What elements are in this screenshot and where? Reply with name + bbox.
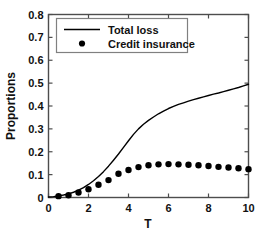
legend-label-credit-insurance: Credit insurance [108, 38, 195, 50]
y-tick-label: 0.7 [28, 31, 43, 43]
data-point-marker [205, 163, 211, 169]
data-point-marker [175, 161, 181, 167]
y-tick-label: 0.1 [28, 169, 43, 181]
y-tick-label: 0.4 [28, 100, 44, 112]
data-point-marker [245, 166, 251, 172]
legend-dot-icon [79, 40, 85, 46]
data-point-marker [55, 193, 61, 199]
x-tick-label: 2 [85, 202, 91, 214]
data-point-marker [195, 162, 201, 168]
data-point-marker [95, 181, 101, 187]
data-point-marker [125, 167, 131, 173]
y-tick-label: 0.3 [28, 123, 43, 135]
data-point-marker [85, 186, 91, 192]
data-point-marker [145, 162, 151, 168]
data-point-marker [225, 164, 231, 170]
chart-plot-area: 0246810 00.10.20.30.40.50.60.70.8 T Prop… [0, 0, 267, 245]
data-point-marker [235, 165, 241, 171]
x-tick-label: 10 [242, 202, 254, 214]
x-axis-title: T [144, 217, 152, 231]
data-point-marker [65, 192, 71, 198]
y-tick-label: 0.5 [28, 77, 43, 89]
y-tick-label: 0 [37, 192, 43, 204]
y-tick-label: 0.2 [28, 146, 43, 158]
data-point-marker [215, 164, 221, 170]
data-point-marker [135, 164, 141, 170]
data-point-marker [185, 162, 191, 168]
data-point-marker [115, 171, 121, 177]
y-tick-labels: 00.10.20.30.40.50.60.70.8 [28, 9, 44, 204]
data-point-marker [155, 161, 161, 167]
x-tick-label: 6 [165, 202, 171, 214]
data-point-marker [105, 177, 111, 183]
y-axis-title: Proportions [4, 72, 18, 140]
chart-figure: 0246810 00.10.20.30.40.50.60.70.8 T Prop… [0, 0, 267, 245]
legend-label-total-loss: Total loss [108, 24, 159, 36]
y-tick-label: 0.6 [28, 54, 43, 66]
data-point-marker [165, 161, 171, 167]
data-point-marker [75, 189, 81, 195]
y-tick-label: 0.8 [28, 9, 43, 21]
x-tick-label: 0 [45, 202, 51, 214]
x-tick-label: 4 [125, 202, 132, 214]
chart-legend: Total loss Credit insurance [57, 19, 195, 53]
x-tick-label: 8 [205, 202, 211, 214]
